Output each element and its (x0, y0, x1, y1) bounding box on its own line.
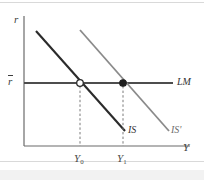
interest-rate-level-label: r (8, 75, 12, 87)
bottom-separator-band (0, 170, 204, 180)
initial-equilibrium-point (77, 80, 84, 87)
interest-rate-level-symbol: r (8, 75, 12, 87)
lm-curve-label: LM (177, 77, 191, 87)
is-prime-curve-label: IS' (171, 125, 181, 135)
new-equilibrium-point (120, 80, 127, 87)
x-tick-label-y0-subscript: 0 (80, 158, 83, 165)
x-axis-label: Y (183, 142, 189, 153)
is-curve-label: IS (128, 125, 136, 135)
x-tick-label-y1-subscript: 1 (123, 158, 126, 165)
y-axis-label: r (14, 14, 18, 25)
x-tick-label-y1: Y1 (117, 153, 127, 164)
plot-canvas (0, 0, 204, 180)
is-lm-figure: r r Y LM IS IS' Y0 Y1 (0, 0, 204, 180)
x-tick-label-y0: Y0 (74, 153, 84, 164)
